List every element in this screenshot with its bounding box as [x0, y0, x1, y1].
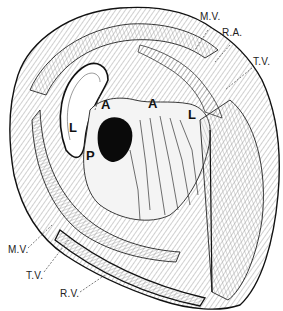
label-mitral-valve-top: M.V. — [200, 11, 220, 22]
label-anterior-right: A — [148, 96, 158, 111]
label-right-atrium: R.A. — [222, 27, 242, 38]
label-lateral-left: L — [69, 120, 77, 135]
label-tricuspid-valve-top: T.V. — [253, 56, 270, 67]
label-mitral-valve-bottom: M.V. — [8, 244, 28, 255]
label-posterior: P — [86, 148, 95, 163]
heart-illustration — [0, 0, 283, 311]
label-right-ventricle: R.V. — [60, 288, 79, 299]
label-lateral-right: L — [188, 107, 196, 122]
label-tricuspid-valve-bottom: T.V. — [26, 270, 43, 281]
label-anterior-left: A — [101, 97, 111, 112]
